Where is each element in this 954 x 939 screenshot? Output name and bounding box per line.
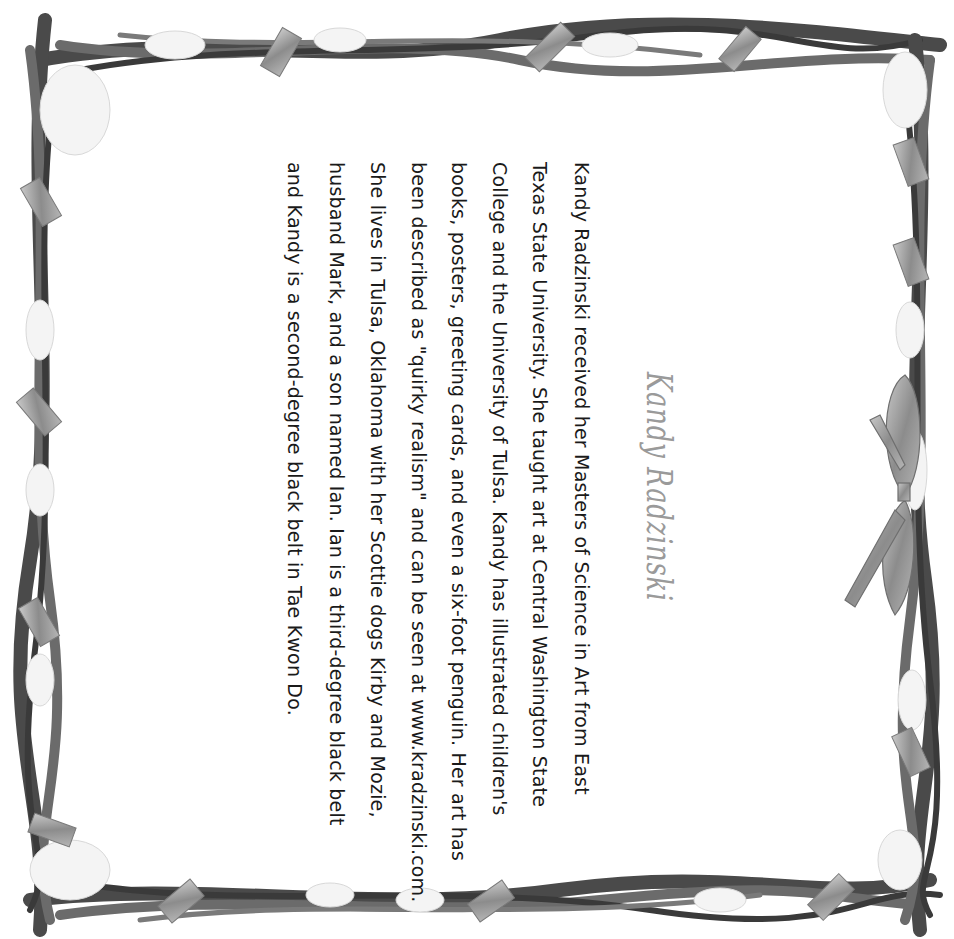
bio-line: books, posters, greeting cards, and even… [448, 162, 470, 861]
bio-line: Texas State University. She taught art a… [529, 162, 551, 807]
bio-line: husband Mark, and a son named Ian. Ian i… [326, 162, 348, 826]
bio-line: She lives in Tulsa, Oklahoma with her Sc… [367, 162, 389, 818]
bio-line: and Kandy is a second-degree black belt … [284, 162, 306, 716]
bio-line: Kandy Radzinski received her Masters of … [571, 162, 593, 795]
bio-line: been described as "quirky realism" and c… [408, 162, 430, 903]
bio-page: Kandy Radzinski Kandy Radzinski received… [0, 0, 954, 939]
bio-line: College and the University of Tulsa. Kan… [489, 162, 511, 816]
author-name-title: Kandy Radzinski [639, 372, 680, 602]
